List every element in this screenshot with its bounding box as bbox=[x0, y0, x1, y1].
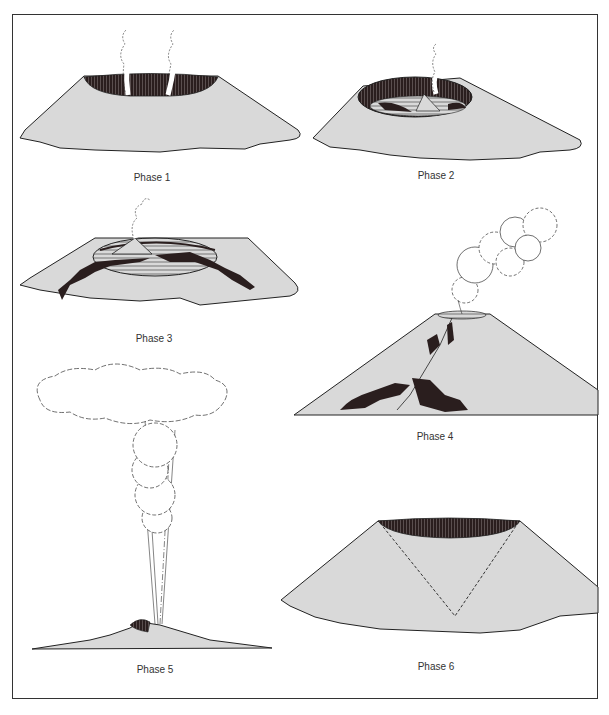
phase-1-caption: Phase 1 bbox=[134, 172, 171, 183]
phase-6-volcano bbox=[281, 518, 598, 633]
phase-4-caption: Phase 4 bbox=[417, 431, 454, 442]
phase-3-volcano bbox=[20, 199, 298, 305]
volcano-phases-illustration bbox=[0, 0, 609, 715]
phase-4-volcano bbox=[294, 208, 598, 415]
phase-5-caption: Phase 5 bbox=[137, 664, 174, 675]
phase-2-volcano bbox=[313, 44, 581, 160]
phase-2-caption: Phase 2 bbox=[418, 170, 455, 181]
phase-1-volcano bbox=[20, 30, 300, 152]
phase-6-caption: Phase 6 bbox=[418, 661, 455, 672]
phase-5-volcano bbox=[32, 364, 272, 649]
phase-3-caption: Phase 3 bbox=[136, 333, 173, 344]
